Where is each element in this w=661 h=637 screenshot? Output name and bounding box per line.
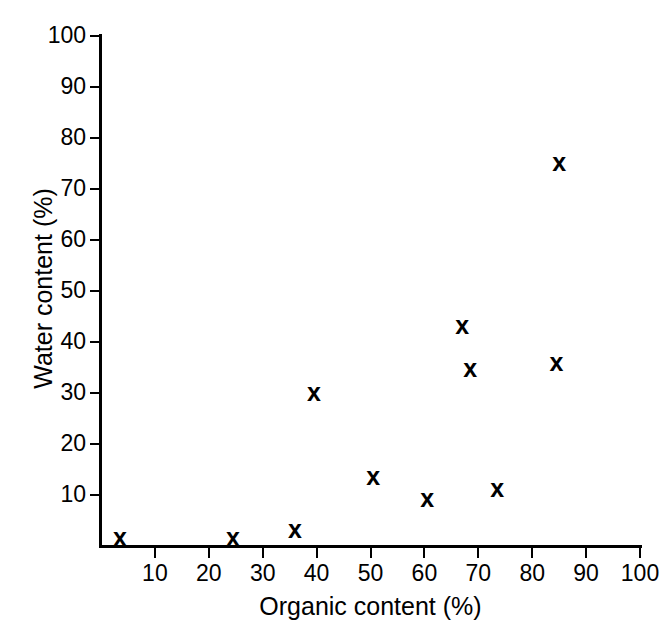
x-tick-label: 90 bbox=[556, 562, 616, 585]
x-tick-mark bbox=[370, 548, 372, 558]
x-tick-mark bbox=[316, 548, 318, 558]
data-point-marker: x bbox=[546, 350, 566, 375]
data-point-marker: x bbox=[417, 485, 437, 510]
y-tick-label: 90 bbox=[40, 75, 86, 98]
data-point-marker: x bbox=[487, 476, 507, 501]
data-point-marker: x bbox=[460, 355, 480, 380]
x-tick-mark bbox=[531, 548, 533, 558]
x-tick-label: 30 bbox=[233, 562, 293, 585]
data-point-marker: x bbox=[549, 149, 569, 174]
plot-area: xxxxxxxxxxx bbox=[101, 36, 640, 546]
y-tick-label-wrap: 90 bbox=[0, 75, 86, 99]
x-axis-title: Organic content (%) bbox=[101, 592, 640, 621]
y-tick-mark bbox=[90, 137, 100, 139]
x-tick-mark bbox=[585, 548, 587, 558]
data-point-marker: x bbox=[223, 524, 243, 549]
y-tick-mark bbox=[90, 188, 100, 190]
y-tick-mark bbox=[90, 443, 100, 445]
x-tick-label: 60 bbox=[394, 562, 454, 585]
scatter-plot-figure: 102030405060708090100 102030405060708090… bbox=[0, 0, 661, 637]
x-tick-mark bbox=[423, 548, 425, 558]
y-tick-mark bbox=[90, 239, 100, 241]
x-tick-mark bbox=[208, 548, 210, 558]
data-point-marker: x bbox=[304, 379, 324, 404]
data-point-marker: x bbox=[363, 463, 383, 488]
x-tick-label: 100 bbox=[610, 562, 661, 585]
y-tick-mark bbox=[90, 86, 100, 88]
y-tick-mark bbox=[90, 341, 100, 343]
y-axis-title: Water content (%) bbox=[29, 139, 58, 439]
x-tick-mark bbox=[639, 548, 641, 558]
x-tick-label: 20 bbox=[179, 562, 239, 585]
x-tick-label: 40 bbox=[287, 562, 347, 585]
x-tick-label: 80 bbox=[502, 562, 562, 585]
x-tick-label: 50 bbox=[341, 562, 401, 585]
y-tick-mark bbox=[90, 494, 100, 496]
x-tick-label: 70 bbox=[448, 562, 508, 585]
data-point-marker: x bbox=[110, 524, 130, 549]
x-tick-mark bbox=[154, 548, 156, 558]
y-tick-label: 10 bbox=[40, 483, 86, 506]
x-tick-label: 10 bbox=[125, 562, 185, 585]
y-tick-label: 100 bbox=[40, 24, 86, 47]
x-tick-mark bbox=[477, 548, 479, 558]
data-point-marker: x bbox=[452, 313, 472, 338]
y-tick-label-wrap: 100 bbox=[0, 24, 86, 48]
x-tick-mark bbox=[262, 548, 264, 558]
y-tick-mark bbox=[90, 392, 100, 394]
y-tick-label-wrap: 10 bbox=[0, 483, 86, 507]
y-tick-mark bbox=[90, 35, 100, 37]
y-tick-mark bbox=[90, 290, 100, 292]
data-point-marker: x bbox=[285, 517, 305, 542]
